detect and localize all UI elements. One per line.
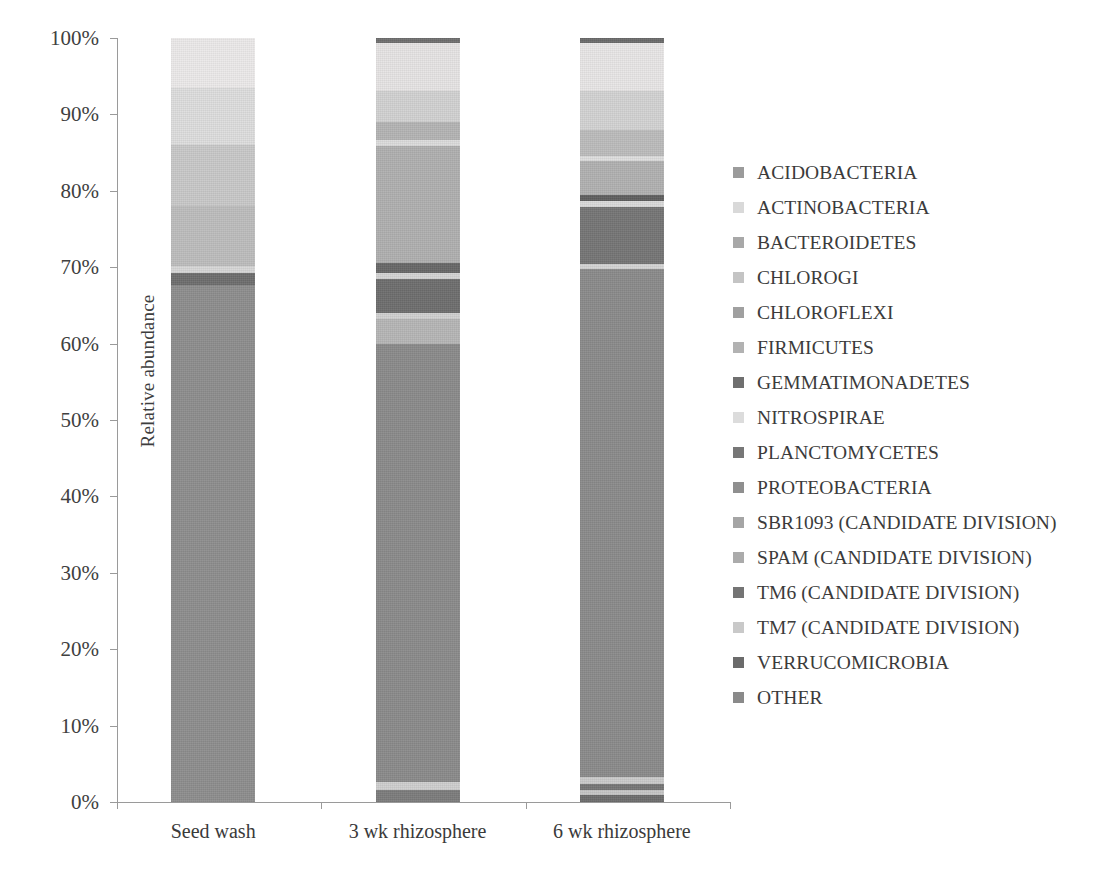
stacked-bar-chart-figure: Relative abundance 0%10%20%30%40%50%60%7… xyxy=(0,0,1108,881)
y-tick-mark: 10% xyxy=(110,726,117,727)
y-tick-mark: 90% xyxy=(110,114,117,115)
legend-item-label: ACIDOBACTERIA xyxy=(757,162,918,184)
legend-swatch-icon xyxy=(733,587,744,598)
y-tick-label: 30% xyxy=(61,560,100,585)
bar-segment[interactable] xyxy=(376,122,460,140)
legend-item[interactable]: SPAM (CANDIDATE DIVISION) xyxy=(733,540,1093,575)
legend-item[interactable]: BACTEROIDETES xyxy=(733,225,1093,260)
y-tick-label: 50% xyxy=(61,408,100,433)
bar-segment[interactable] xyxy=(376,146,460,263)
legend-item[interactable]: FIRMICUTES xyxy=(733,330,1093,365)
legend-swatch-icon xyxy=(733,622,744,633)
legend-item[interactable]: ACIDOBACTERIA xyxy=(733,155,1093,190)
y-tick-label: 70% xyxy=(61,255,100,280)
bar-segment[interactable] xyxy=(376,43,460,92)
legend-item-label: TM7 (CANDIDATE DIVISION) xyxy=(757,617,1019,639)
x-tick-mark xyxy=(321,802,322,809)
stacked-bar[interactable] xyxy=(376,38,460,802)
bar-segment[interactable] xyxy=(580,795,664,802)
bar-segment[interactable] xyxy=(376,91,460,122)
stacked-bar[interactable] xyxy=(171,38,255,802)
chart-legend: ACIDOBACTERIAACTINOBACTERIABACTEROIDETES… xyxy=(733,155,1093,715)
bar-segment[interactable] xyxy=(171,38,255,88)
legend-item[interactable]: TM6 (CANDIDATE DIVISION) xyxy=(733,575,1093,610)
legend-item-label: NITROSPIRAE xyxy=(757,407,885,429)
y-tick-label: 100% xyxy=(50,26,99,51)
y-tick-label: 0% xyxy=(71,790,99,815)
legend-swatch-icon xyxy=(733,202,744,213)
legend-swatch-icon xyxy=(733,307,744,318)
stacked-bar[interactable] xyxy=(580,38,664,802)
y-axis-line xyxy=(117,38,118,803)
bar-segment[interactable] xyxy=(580,269,664,777)
x-category-label: Seed wash xyxy=(171,820,256,843)
legend-item[interactable]: GEMMATIMONADETES xyxy=(733,365,1093,400)
legend-item[interactable]: ACTINOBACTERIA xyxy=(733,190,1093,225)
legend-swatch-icon xyxy=(733,237,744,248)
legend-item-label: VERRUCOMICROBIA xyxy=(757,652,949,674)
bar-segment[interactable] xyxy=(376,782,460,790)
legend-swatch-icon xyxy=(733,167,744,178)
legend-item-label: SPAM (CANDIDATE DIVISION) xyxy=(757,547,1032,569)
legend-swatch-icon xyxy=(733,377,744,388)
legend-item[interactable]: SBR1093 (CANDIDATE DIVISION) xyxy=(733,505,1093,540)
legend-swatch-icon xyxy=(733,657,744,668)
bar-segment[interactable] xyxy=(376,319,460,343)
legend-swatch-icon xyxy=(733,517,744,528)
bar-segment[interactable] xyxy=(580,130,664,156)
legend-item-label: SBR1093 (CANDIDATE DIVISION) xyxy=(757,512,1057,534)
y-tick-mark: 70% xyxy=(110,267,117,268)
legend-item[interactable]: PROTEOBACTERIA xyxy=(733,470,1093,505)
legend-item[interactable]: OTHER xyxy=(733,680,1093,715)
bar-segment[interactable] xyxy=(580,161,664,195)
bar-segment[interactable] xyxy=(580,91,664,129)
bar-segment[interactable] xyxy=(376,344,460,783)
legend-swatch-icon xyxy=(733,692,744,703)
y-tick-label: 60% xyxy=(61,331,100,356)
legend-swatch-icon xyxy=(733,342,744,353)
bar-segment[interactable] xyxy=(580,207,664,264)
y-tick-mark: 0% xyxy=(110,802,117,803)
y-tick-label: 90% xyxy=(61,102,100,127)
bar-segment[interactable] xyxy=(376,790,460,802)
legend-item[interactable]: PLANCTOMYCETES xyxy=(733,435,1093,470)
legend-swatch-icon xyxy=(733,412,744,423)
legend-item-label: CHLOROFLEXI xyxy=(757,302,894,324)
legend-swatch-icon xyxy=(733,552,744,563)
y-tick-mark: 60% xyxy=(110,344,117,345)
plot-area: 0%10%20%30%40%50%60%70%80%90%100% Seed w… xyxy=(117,38,730,803)
legend-item-label: GEMMATIMONADETES xyxy=(757,372,970,394)
bar-segment[interactable] xyxy=(171,285,255,801)
legend-item-label: OTHER xyxy=(757,687,823,709)
y-tick-mark: 20% xyxy=(110,649,117,650)
legend-item-label: FIRMICUTES xyxy=(757,337,874,359)
bar-segment[interactable] xyxy=(171,273,255,285)
legend-item-label: CHLOROGI xyxy=(757,267,859,289)
legend-swatch-icon xyxy=(733,447,744,458)
y-tick-mark: 100% xyxy=(110,38,117,39)
legend-item[interactable]: TM7 (CANDIDATE DIVISION) xyxy=(733,610,1093,645)
legend-item-label: PROTEOBACTERIA xyxy=(757,477,932,499)
legend-item[interactable]: VERRUCOMICROBIA xyxy=(733,645,1093,680)
bar-segment[interactable] xyxy=(376,279,460,313)
bar-segment[interactable] xyxy=(171,206,255,266)
bar-segment[interactable] xyxy=(171,145,255,206)
legend-swatch-icon xyxy=(733,482,744,493)
y-tick-mark: 30% xyxy=(110,573,117,574)
legend-item[interactable]: NITROSPIRAE xyxy=(733,400,1093,435)
legend-item-label: TM6 (CANDIDATE DIVISION) xyxy=(757,582,1019,604)
legend-item[interactable]: CHLOROFLEXI xyxy=(733,295,1093,330)
y-tick-mark: 80% xyxy=(110,191,117,192)
bar-segment[interactable] xyxy=(376,263,460,273)
legend-item-label: BACTEROIDETES xyxy=(757,232,916,254)
bar-segment[interactable] xyxy=(580,777,664,784)
x-category-label: 6 wk rhizosphere xyxy=(553,820,691,843)
legend-item[interactable]: CHLOROGI xyxy=(733,260,1093,295)
bar-segment[interactable] xyxy=(171,88,255,145)
bar-segment[interactable] xyxy=(171,266,255,274)
y-tick-label: 20% xyxy=(61,637,100,662)
bar-segment[interactable] xyxy=(580,43,664,91)
legend-swatch-icon xyxy=(733,272,744,283)
y-tick-label: 40% xyxy=(61,484,100,509)
y-tick-mark: 50% xyxy=(110,420,117,421)
